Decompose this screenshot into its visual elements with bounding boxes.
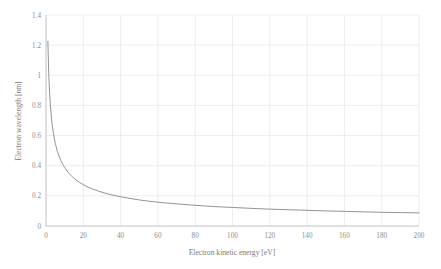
x-tick-label: 40: [117, 232, 125, 240]
y-tick-label: 1: [37, 72, 41, 80]
x-tick-label: 20: [80, 232, 88, 240]
y-axis-title: Electron wavelength [nm]: [14, 81, 23, 160]
x-tick-label: 80: [192, 232, 200, 240]
x-axis-title: Electron kinetic energy [eV]: [189, 248, 276, 257]
y-tick-label: 0.4: [32, 162, 41, 170]
chart-plot: 020406080100120140160180200 00.20.40.60.…: [0, 0, 441, 269]
x-tick-label: 100: [227, 232, 238, 240]
y-tick-label: 1.2: [32, 42, 41, 50]
chart-background: [0, 0, 441, 269]
y-tick-label: 0.2: [32, 192, 41, 200]
x-tick-label: 120: [264, 232, 275, 240]
y-tick-label: 0.6: [32, 132, 41, 140]
x-tick-label: 140: [302, 232, 313, 240]
x-tick-label: 160: [339, 232, 350, 240]
x-tick-label: 200: [414, 232, 425, 240]
x-tick-label: 0: [44, 232, 48, 240]
y-tick-label: 0.8: [32, 102, 41, 110]
x-tick-label: 60: [154, 232, 162, 240]
x-tick-label: 180: [376, 232, 387, 240]
chart-container: 020406080100120140160180200 00.20.40.60.…: [0, 0, 441, 269]
y-tick-label: 1.4: [32, 12, 41, 20]
y-tick-label: 0: [37, 223, 41, 231]
